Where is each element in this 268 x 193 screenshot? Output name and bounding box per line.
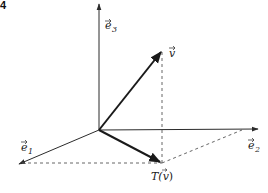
label-T-of-v: T(v)	[151, 169, 173, 184]
label-e3: e 3	[105, 19, 117, 34]
svg-text:v: v	[169, 47, 176, 60]
e2-axis	[99, 129, 258, 130]
label-v: v	[169, 46, 176, 60]
figure-number: 4	[0, 0, 7, 11]
vector-T-of-v	[99, 130, 160, 162]
label-e1: e 1	[21, 140, 33, 156]
svg-text:1: 1	[28, 147, 33, 156]
vector-projection-diagram: 4 e 3 v e 1 e 2 T(v)	[0, 0, 268, 193]
svg-text:2: 2	[254, 145, 260, 154]
e2-parallel-dashed-line	[162, 130, 242, 163]
svg-text:T(v): T(v)	[151, 170, 173, 183]
svg-text:3: 3	[112, 25, 117, 34]
label-e2: e 2	[248, 138, 260, 154]
svg-text:e: e	[21, 141, 28, 154]
vector-v	[99, 52, 161, 130]
svg-text:e: e	[248, 139, 255, 152]
